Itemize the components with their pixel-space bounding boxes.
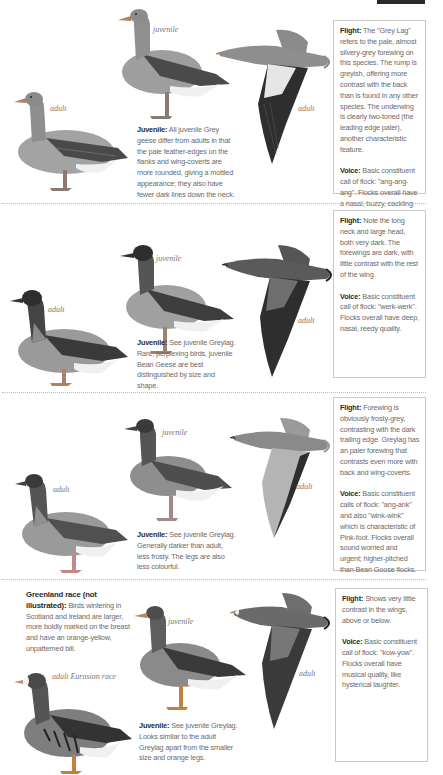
section-bean-goose: adult juvenile adult Juvenile: See juven… <box>0 205 443 385</box>
juvenile-description: Juvenile: See juvenile Greylag. Looks si… <box>139 721 239 764</box>
label-adult: adult <box>53 485 69 494</box>
juvenile-goose-illustration <box>112 4 232 122</box>
voice-info: Voice: Basic constituent call of flock: … <box>340 292 420 335</box>
adult-flight-goose-illustration <box>230 416 330 540</box>
adult-standing-goose-illustration <box>6 86 128 194</box>
adult-flight-goose-illustration <box>222 243 332 379</box>
flight-info: Flight: The "Grey Lag" refers to the pal… <box>340 26 420 156</box>
adult-eurasian-race-goose-illustration <box>14 669 132 775</box>
juvenile-description: Juvenile: See juvenile Greylag. Rare, pe… <box>137 338 237 392</box>
adult-standing-goose-illustration <box>6 287 128 387</box>
section-pink-footed-goose: adult juvenile adult Juvenile: See juven… <box>0 394 443 576</box>
label-adult: adult <box>48 305 64 314</box>
flight-voice-info-box: Flight: The "Grey Lag" refers to the pal… <box>333 20 426 194</box>
label-juvenile: juvenile <box>162 428 187 437</box>
voice-info: Voice: Basic constituent call of flock: … <box>342 637 422 691</box>
label-adult-flight: adult <box>299 669 315 678</box>
label-juvenile: juvenile <box>156 254 181 263</box>
voice-info: Voice: Basic constituent calls of flock:… <box>340 489 420 575</box>
flight-info: Flight: Note the long neck and large hea… <box>340 216 420 281</box>
juvenile-description: Juvenile: All juvenile Grey geese differ… <box>137 125 237 201</box>
juvenile-description: Juvenile: See juvenile Greylag. Generall… <box>137 530 237 573</box>
flight-voice-info-box: Flight: Note the long neck and large hea… <box>333 210 426 378</box>
flight-voice-info-box: Flight: Shows very little contrast in th… <box>335 588 428 762</box>
section-divider <box>2 203 426 204</box>
flight-info: Flight: Shows very little contrast in th… <box>342 594 422 626</box>
label-adult-flight: adult <box>298 316 314 325</box>
label-juvenile: juvenile <box>153 25 178 34</box>
flight-voice-info-box: Flight: Forewing is obviously frosty-gre… <box>333 397 426 571</box>
flight-info: Flight: Forewing is obviously frosty-gre… <box>340 403 420 479</box>
section-greylag: adult juvenile adult Juvenile: All j <box>0 0 443 200</box>
label-adult-flight: adult <box>298 104 314 113</box>
greenland-race-description: Greenland race (not illustrated): Birds … <box>26 590 134 655</box>
section-divider <box>2 579 426 580</box>
label-adult-eurasian-race: adult Eurasian race <box>52 672 116 681</box>
label-juvenile: juvenile <box>168 617 193 626</box>
adult-standing-goose-illustration <box>12 470 128 574</box>
label-adult-flight: adult <box>296 482 312 491</box>
section-white-fronted-goose: Greenland race (not illustrated): Birds … <box>0 581 443 775</box>
section-divider <box>2 392 426 393</box>
adult-flight-goose-illustration <box>230 591 330 731</box>
label-adult: adult <box>50 104 66 113</box>
